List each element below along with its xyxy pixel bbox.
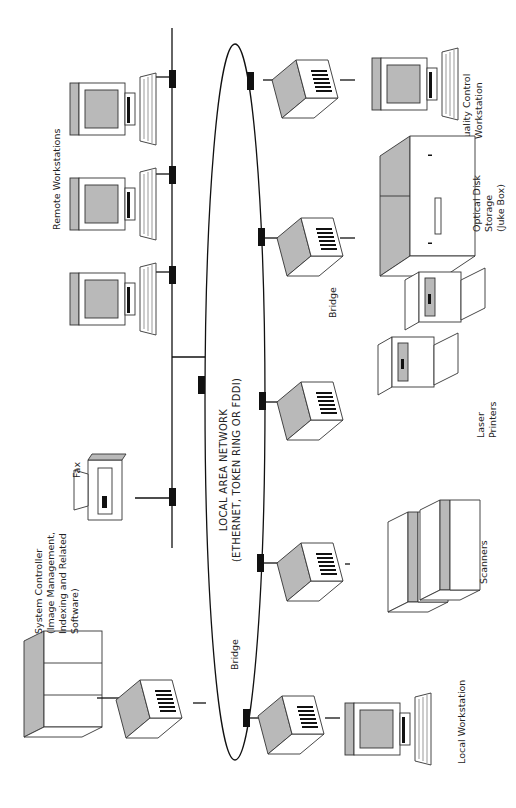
- svg-text:Quality Control: Quality Control: [461, 74, 472, 145]
- remote-workstation-1: [70, 73, 156, 145]
- svg-text:Storage: Storage: [483, 195, 494, 232]
- quality-control-label: Quality Control Workstation: [461, 74, 484, 145]
- svg-text:(Image Management,: (Image Management,: [45, 532, 56, 634]
- svg-text:Software): Software): [69, 588, 80, 634]
- local-workstation-icon: [345, 693, 431, 765]
- local-bridge-icon: [258, 696, 324, 754]
- svg-text:System Controller: System Controller: [33, 549, 44, 634]
- svg-text:(Juke Box): (Juke Box): [495, 184, 506, 232]
- svg-text:Indexing and Related: Indexing and Related: [57, 533, 68, 634]
- fax-label: Fax: [71, 462, 82, 478]
- system-controller-icon: [24, 631, 102, 737]
- laser-printer-1-icon: [405, 268, 485, 330]
- local-workstation-label: Local Workstation: [456, 680, 467, 764]
- svg-text:Printers: Printers: [487, 401, 498, 438]
- optical-disk-storage-icon: [380, 136, 475, 276]
- bridge-controller-icon: [116, 680, 182, 738]
- svg-text:LOCAL AREA NETWORK: LOCAL AREA NETWORK: [218, 409, 229, 532]
- svg-text:Laser: Laser: [475, 412, 486, 438]
- laser-printers-label: Laser Printers: [475, 401, 498, 438]
- scanner-bridge-icon: [277, 543, 343, 601]
- remote-workstations-label: Remote Workstations: [51, 129, 62, 230]
- network-diagram: Remote Workstations Fax System Controlle…: [0, 0, 516, 808]
- laser-printer-2-icon: [378, 333, 458, 395]
- quality-control-workstation-icon: [372, 48, 458, 120]
- optical-disk-label: Optical Disk Storage (Juke Box): [471, 175, 506, 232]
- lan-connector: [198, 376, 205, 394]
- lan-label: LOCAL AREA NETWORK (ETHERNET, TOKEN RING…: [218, 378, 242, 562]
- scanner-2-icon: [420, 500, 480, 600]
- qc-bridge-icon: [272, 60, 338, 118]
- remote-workstation-3: [70, 263, 156, 335]
- printer-bridge-icon: [277, 382, 343, 440]
- svg-text:Workstation: Workstation: [473, 82, 484, 139]
- scanners-label: Scanners: [478, 540, 489, 584]
- bridge-controller-label: Bridge: [229, 639, 240, 670]
- remote-workstation-2: [70, 168, 156, 240]
- optical-bridge-icon: [277, 218, 343, 276]
- bridge-printers-label: Bridge: [327, 287, 338, 318]
- svg-text:(ETHERNET, TOKEN RING OR FDDI: (ETHERNET, TOKEN RING OR FDDI): [231, 378, 242, 562]
- svg-text:Optical Disk: Optical Disk: [471, 175, 482, 232]
- system-controller-label: System Controller (Image Management, Ind…: [33, 532, 80, 634]
